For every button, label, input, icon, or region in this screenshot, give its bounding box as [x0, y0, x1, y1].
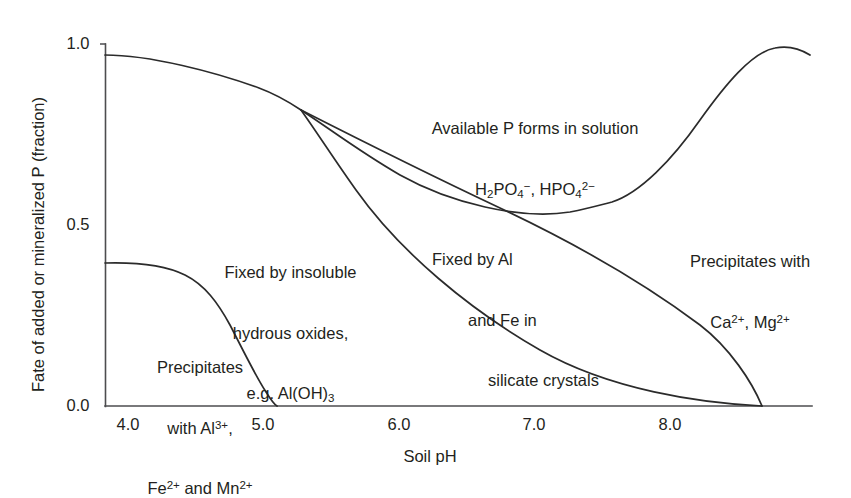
annotation-hydrous-oxides-line1: Fixed by insoluble	[188, 262, 393, 282]
f3: PO	[493, 180, 517, 198]
f1: H	[475, 180, 487, 198]
annotation-precipitates-al-line2: with Al3+,	[105, 418, 295, 438]
annotation-precipitates-ca-line2: Ca2+, Mg2+	[655, 312, 845, 332]
annotation-available-p-formula: H2PO4−, HPO42−	[395, 179, 675, 201]
p5: 2+	[167, 479, 180, 491]
c2: 2+	[731, 313, 744, 325]
p6: and Mn	[180, 479, 240, 497]
h2: 3	[328, 392, 334, 404]
annotation-precipitates-ca: Precipitates with Ca2+, Mg2+	[655, 211, 845, 372]
annotation-available-p-line1: Available P forms in solution	[395, 118, 675, 138]
y-tick-label-0-5: 0.5	[57, 214, 99, 234]
p4: Fe	[147, 479, 166, 497]
annotation-silicate-line1: Fixed by Al	[432, 249, 632, 269]
x-tick-label-8: 8.0	[649, 414, 691, 434]
annotation-precipitates-al-line3: Fe2+ and Mn2+	[105, 478, 295, 498]
p1: with Al	[167, 419, 215, 437]
p2: 3+	[215, 419, 228, 431]
annotation-precipitates-al: Precipitates with Al3+, Fe2+ and Mn2+	[105, 317, 295, 498]
y-tick-label-0: 0.0	[57, 395, 99, 415]
f9: 2−	[582, 180, 595, 192]
p7: 2+	[239, 479, 252, 491]
c3: , Mg	[745, 313, 777, 331]
annotation-silicate-crystals: Fixed by Al and Fe in silicate crystals	[432, 209, 632, 430]
c1: Ca	[710, 313, 731, 331]
f6: ,	[530, 180, 539, 198]
y-axis-title: Fate of added or mineralized P (fraction…	[28, 97, 48, 392]
annotation-precipitates-al-line1: Precipitates	[105, 357, 295, 377]
f7: HPO	[540, 180, 576, 198]
c4: 2+	[777, 313, 790, 325]
annotation-precipitates-ca-line1: Precipitates with	[655, 251, 845, 271]
x-axis-title: Soil pH	[370, 446, 490, 466]
p3: ,	[228, 419, 233, 437]
y-tick-label-1: 1.0	[57, 33, 99, 53]
annotation-silicate-line3: silicate crystals	[432, 370, 632, 390]
annotation-silicate-line2: and Fe in	[432, 310, 632, 330]
